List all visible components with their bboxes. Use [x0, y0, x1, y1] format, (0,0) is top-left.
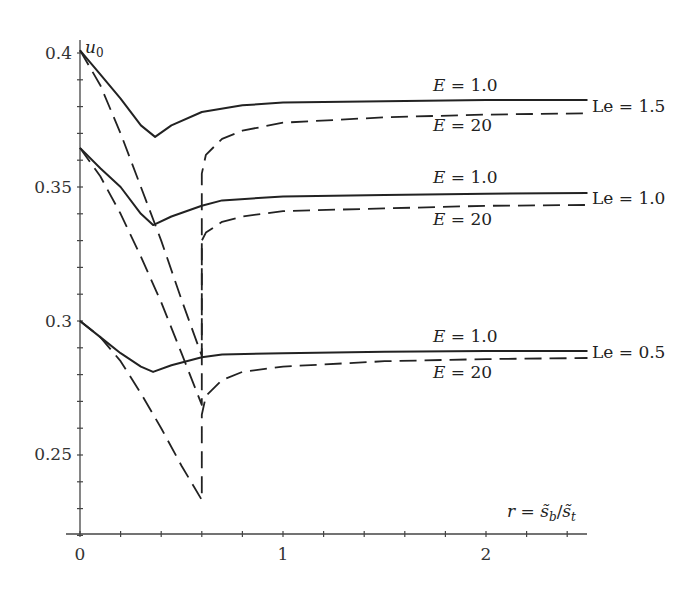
xtick-label: 1 — [278, 544, 289, 564]
curve-le-1-0-e-1-0 — [80, 148, 588, 225]
chart-plot: 0.4 0.35 0.3 0.25 0 1 2 u0 r = s̃b/s̃t E… — [0, 0, 686, 591]
label-le15-e20: E = 20 — [432, 115, 492, 135]
label-le05-e20: E = 20 — [432, 362, 492, 382]
ytick-label: 0.35 — [34, 177, 72, 197]
curves — [80, 50, 588, 500]
xtick-label: 0 — [75, 544, 86, 564]
label-le10: Le = 1.0 — [592, 188, 665, 208]
x-axis-title: r = s̃b/s̃t — [507, 501, 576, 524]
label-le15-e1: E = 1.0 — [432, 75, 498, 95]
ytick-label: 0.4 — [45, 43, 72, 63]
label-le15: Le = 1.5 — [592, 96, 665, 116]
curve-le-1-0-e-20 — [80, 148, 588, 405]
xtick-label: 2 — [481, 544, 492, 564]
label-le10-e1: E = 1.0 — [432, 167, 498, 187]
axes — [66, 40, 587, 534]
curve-labels: E = 1.0 E = 20 Le = 1.5 E = 1.0 E = 20 L… — [432, 75, 665, 382]
ytick-label: 0.3 — [45, 311, 72, 331]
label-le05: Le = 0.5 — [592, 342, 665, 362]
curve-le-1-5-e-20 — [80, 50, 588, 356]
curve-le-0-5-e-20 — [80, 321, 588, 500]
label-le05-e1: E = 1.0 — [432, 326, 498, 346]
ytick-label: 0.25 — [34, 444, 72, 464]
label-le10-e20: E = 20 — [432, 209, 492, 229]
curve-le-1-5-e-1-0 — [80, 50, 588, 137]
y-axis-title: u0 — [85, 37, 104, 60]
